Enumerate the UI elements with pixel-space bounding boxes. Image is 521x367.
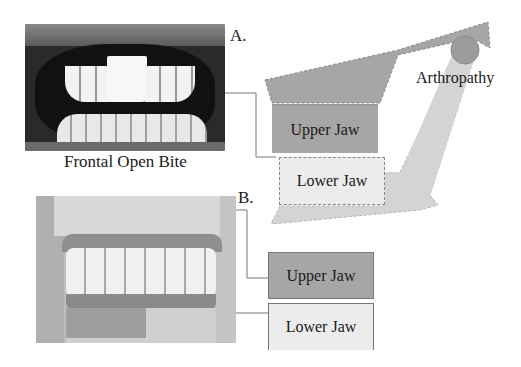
lower-jaw-box: Lower Jaw (268, 303, 374, 350)
panel-a-letter: A. (230, 26, 247, 46)
panel-b-letter: B. (238, 188, 254, 208)
schematic-upper-jaw: Upper Jaw (272, 106, 378, 153)
upper-jaw-box: Upper Jaw (268, 252, 374, 299)
condyle-circle (451, 36, 479, 64)
photo-caption-frontal-open-bite: Frontal Open Bite (64, 152, 187, 172)
arthropathy-label: Arthropathy (416, 69, 494, 87)
dental-cast-photo (36, 196, 236, 343)
schematic-lower-jaw: Lower Jaw (279, 157, 385, 205)
frontal-open-bite-photo (25, 24, 225, 151)
